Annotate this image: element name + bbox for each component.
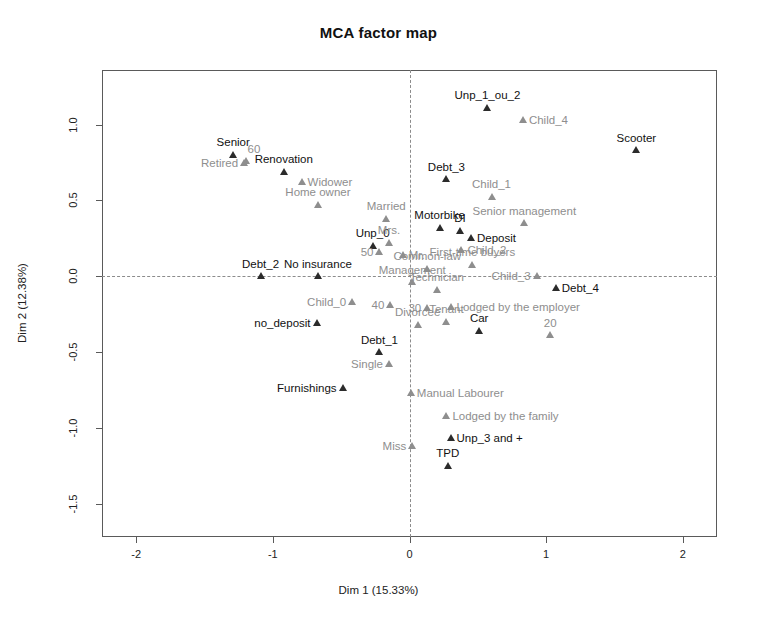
triangle-marker-icon [456, 227, 464, 234]
triangle-marker-icon [436, 224, 444, 231]
triangle-marker-icon [339, 384, 347, 391]
triangle-marker-icon [447, 434, 455, 441]
triangle-marker-icon [533, 272, 541, 279]
y-axis-tick-label: -1.0 [67, 411, 79, 445]
page-title: MCA factor map [0, 24, 757, 41]
y-axis-tick-label: -1.5 [67, 487, 79, 521]
triangle-marker-icon [382, 215, 390, 222]
triangle-marker-icon [257, 272, 265, 279]
triangle-marker-icon [240, 159, 248, 166]
triangle-marker-icon [298, 178, 306, 185]
y-axis-tick-label: 0.0 [67, 259, 79, 293]
x-axis-label: Dim 1 (15.33%) [0, 584, 757, 596]
data-point-label: Married [367, 201, 406, 213]
data-point-label: Senior management [473, 206, 577, 218]
data-point-label: Furnishings [277, 383, 336, 395]
triangle-marker-icon [433, 286, 441, 293]
x-axis-tick-label: 1 [543, 548, 549, 560]
triangle-marker-icon [386, 301, 394, 308]
triangle-marker-icon [468, 261, 476, 268]
triangle-marker-icon [442, 318, 450, 325]
y-axis-tick-label: 1.0 [67, 108, 79, 142]
data-point-label: Technician [410, 272, 464, 284]
y-axis-label: Dim 2 (12.38%) [16, 243, 28, 363]
x-axis-tick [683, 537, 684, 543]
triangle-marker-icon [414, 321, 422, 328]
data-point-label: Unp_3 and + [457, 433, 523, 445]
x-axis-tick [410, 537, 411, 543]
triangle-marker-icon [385, 239, 393, 246]
data-point-label: Senior [217, 137, 250, 149]
x-axis-tick [136, 537, 137, 543]
data-point-label: Debt_2 [242, 259, 279, 271]
data-point-label: DI [454, 213, 466, 225]
scatter-plot-area: Unp_1_ou_2Child_4ScooterSenior60RetiredR… [102, 70, 717, 537]
data-point-label: Car [470, 313, 489, 325]
triangle-marker-icon [519, 116, 527, 123]
data-point-label: Miss [383, 441, 407, 453]
triangle-marker-icon [314, 201, 322, 208]
data-point-label: Retired [201, 158, 238, 170]
triangle-marker-icon [280, 168, 288, 175]
data-point-label: Common-law [393, 251, 461, 263]
triangle-marker-icon [375, 248, 383, 255]
data-point-label: Scooter [617, 133, 657, 145]
data-point-label: no_deposit [254, 318, 310, 330]
x-axis-tick-label: 2 [680, 548, 686, 560]
data-point-label: Debt_4 [562, 283, 599, 295]
data-point-label: No insurance [284, 259, 352, 271]
triangle-marker-icon [444, 462, 452, 469]
data-point-label: Renovation [255, 154, 313, 166]
data-point-label: Deposit [477, 233, 516, 245]
data-point-label: Mrs. [378, 225, 400, 237]
triangle-marker-icon [314, 272, 322, 279]
y-axis-tick-label: -0.5 [67, 335, 79, 369]
triangle-marker-icon [442, 175, 450, 182]
triangle-marker-icon [375, 348, 383, 355]
triangle-marker-icon [546, 331, 554, 338]
x-axis-tick [273, 537, 274, 543]
triangle-marker-icon [520, 219, 528, 226]
triangle-marker-icon [385, 360, 393, 367]
triangle-marker-icon [475, 327, 483, 334]
data-point-label: Unp_1_ou_2 [454, 90, 520, 102]
triangle-marker-icon [407, 389, 415, 396]
x-axis-tick-label: 0 [406, 548, 412, 560]
data-point-label: 20 [544, 318, 557, 330]
triangle-marker-icon [408, 442, 416, 449]
triangle-marker-icon [483, 104, 491, 111]
triangle-marker-icon [467, 234, 475, 241]
data-point-label: Debt_1 [361, 335, 398, 347]
mca-factor-map-figure: MCA factor map -2-10121.00.50.0-0.5-1.0-… [0, 0, 757, 636]
data-point-label: Single [351, 359, 383, 371]
triangle-marker-icon [552, 284, 560, 291]
triangle-marker-icon [632, 146, 640, 153]
x-axis-tick [546, 537, 547, 543]
data-point-label: Child_1 [472, 179, 511, 191]
data-point-label: 40 [372, 300, 385, 312]
data-point-label: Lodged by the family [452, 411, 558, 423]
triangle-marker-icon [313, 319, 321, 326]
data-point-label: Child_0 [307, 297, 346, 309]
triangle-marker-icon [442, 412, 450, 419]
x-axis-tick-label: -1 [268, 548, 278, 560]
data-point-label: Home owner [285, 187, 350, 199]
data-point-label: Debt_3 [428, 162, 465, 174]
y-axis-tick-label: 0.5 [67, 183, 79, 217]
data-point-label: TPD [436, 448, 459, 460]
data-point-label: Tenant [429, 304, 464, 316]
data-point-label: Child_3 [492, 271, 531, 283]
triangle-marker-icon [488, 193, 496, 200]
x-axis-tick-label: -2 [131, 548, 141, 560]
data-point-label: Manual Labourer [417, 388, 504, 400]
triangle-marker-icon [348, 298, 356, 305]
data-point-label: 50 [361, 247, 374, 259]
data-point-label: Child_4 [529, 115, 568, 127]
